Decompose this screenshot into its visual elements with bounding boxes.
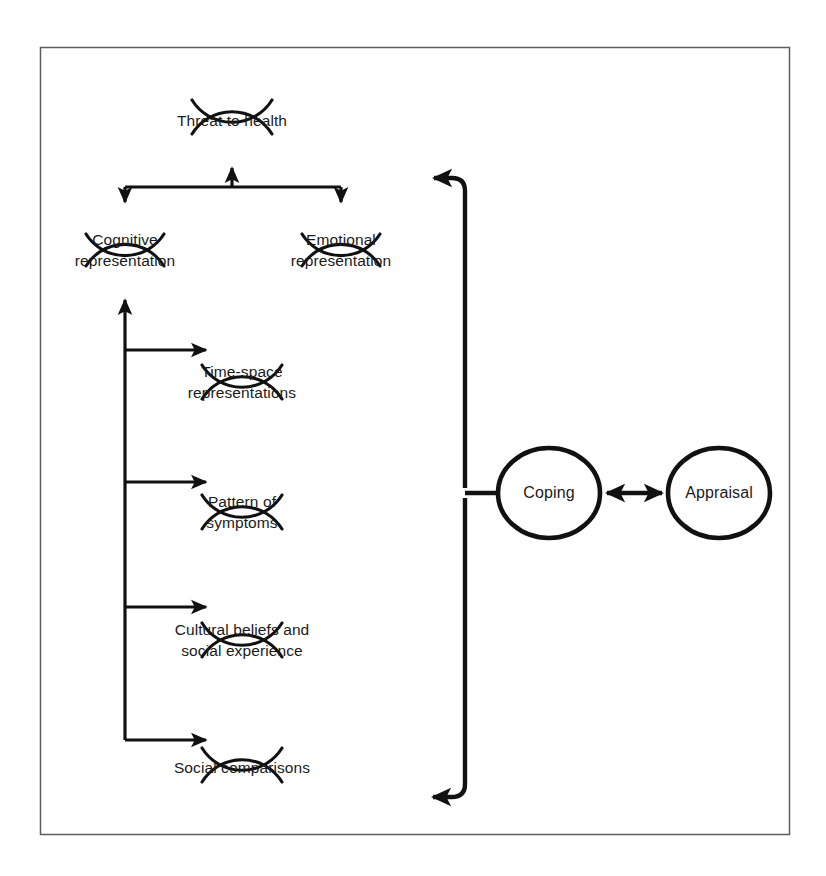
- cognitive-representation-label-line2: representation: [75, 252, 176, 269]
- edge-coping-to-bottom-branch: [433, 498, 465, 797]
- cognitive-representation-label-line1: Cognitive: [92, 231, 158, 248]
- appraisal-label: Appraisal: [685, 484, 753, 501]
- edge-coping-to-top-branch: [434, 178, 465, 488]
- node-cognitive-representation: Cognitive representation: [75, 231, 176, 269]
- node-appraisal: Appraisal: [668, 448, 770, 538]
- pattern-of-symptoms-label-line2: symptoms: [206, 514, 278, 531]
- node-social-comparisons: Social comparisons: [174, 748, 310, 782]
- node-coping: Coping: [498, 448, 600, 538]
- cultural-beliefs-label-line1: Cultural beliefs and: [175, 621, 310, 638]
- pattern-of-symptoms-label-line1: Pattern of: [208, 493, 277, 510]
- figure-root: Threat to health Cognitive representatio…: [0, 0, 826, 876]
- node-threat-to-health: Threat to health: [177, 100, 287, 134]
- time-space-representations-label-line2: representations: [188, 384, 296, 401]
- emotional-representation-label-line1: Emotional: [306, 231, 376, 248]
- node-time-space-representations: Time-space representations: [188, 363, 296, 401]
- emotional-representation-label-line2: representation: [291, 252, 392, 269]
- edge-coping-feedback-spine: [433, 178, 498, 797]
- node-pattern-of-symptoms: Pattern of symptoms: [202, 493, 282, 531]
- time-space-representations-label-line1: Time-space: [201, 363, 282, 380]
- edge-cognitive-spine: [125, 300, 206, 740]
- edge-threat-branch-bus: [125, 168, 341, 202]
- cultural-beliefs-label-line2: social experience: [181, 642, 302, 659]
- figure-frame: [41, 48, 790, 835]
- node-emotional-representation: Emotional representation: [291, 231, 392, 269]
- coping-label: Coping: [523, 484, 574, 501]
- social-comparisons-label: Social comparisons: [174, 759, 310, 776]
- diagram-canvas: Threat to health Cognitive representatio…: [0, 0, 826, 876]
- threat-to-health-label: Threat to health: [177, 112, 287, 129]
- node-cultural-beliefs-and-social-experience: Cultural beliefs and social experience: [175, 621, 310, 659]
